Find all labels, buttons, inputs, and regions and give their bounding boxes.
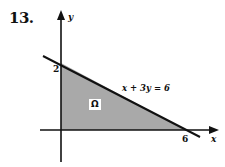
region-label: Ω <box>89 99 101 110</box>
x-axis-label: x <box>211 135 216 144</box>
x-axis-arrow-icon <box>209 126 219 134</box>
y-intercept-tick-label: 2 <box>53 65 59 74</box>
y-axis-label: y <box>68 13 73 22</box>
graph-figure <box>0 0 225 167</box>
line-equation-label: x + 3y = 6 <box>122 84 170 93</box>
y-axis-arrow-icon <box>57 10 65 20</box>
problem-number: 13. <box>9 9 34 27</box>
x-intercept-tick-label: 6 <box>182 135 188 144</box>
